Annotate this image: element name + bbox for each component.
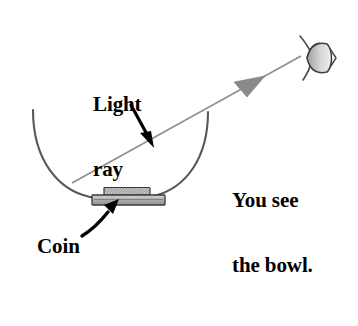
light-ray-label: Light ray xyxy=(93,50,142,225)
light-ray-arrowhead xyxy=(234,76,265,97)
you-see-label-line1: You see xyxy=(232,190,313,212)
you-see-the-bowl-label: You see the bowl. xyxy=(232,146,313,321)
you-see-label-line2: the bowl. xyxy=(232,255,313,277)
eye xyxy=(300,36,336,80)
figure-canvas: Light ray You see the bowl. Coin xyxy=(0,0,358,326)
light-ray-pointer-head xyxy=(140,131,154,148)
coin-label: Coin xyxy=(37,236,80,258)
light-ray-label-line2: ray xyxy=(93,159,142,181)
light-ray-label-line1: Light xyxy=(93,94,142,116)
